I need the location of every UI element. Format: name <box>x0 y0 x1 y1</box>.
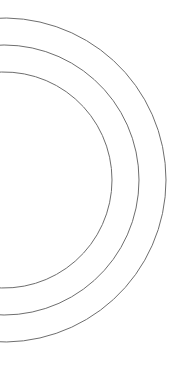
concentric-arcs-diagram <box>0 0 182 369</box>
outer-arc <box>0 18 166 342</box>
middle-arc <box>0 45 139 315</box>
inner-arc <box>0 72 112 288</box>
